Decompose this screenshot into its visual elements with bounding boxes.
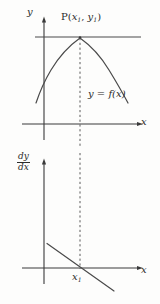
point-P-close-paren: ) <box>97 11 101 22</box>
derivative-numerator: dy <box>17 152 30 161</box>
calculus-figure: y x P(x1, y1) y = f(x) dy dx x x1 <box>0 0 160 304</box>
point-P-label: P(x1, y1) <box>61 12 101 23</box>
top-panel-graph <box>22 17 143 147</box>
top-y-axis-arrow-icon <box>42 17 46 23</box>
bottom-panel-graph <box>22 153 143 291</box>
derivative-axis-label: dy dx <box>17 152 30 173</box>
function-equation-label: y = f(x) <box>88 89 126 99</box>
top-y-axis-label: y <box>27 7 33 17</box>
point-P-letter: P <box>61 11 68 22</box>
root-x1-subscript: 1 <box>78 276 82 283</box>
derivative-denominator: dx <box>17 163 30 172</box>
root-x1-label: x1 <box>72 272 82 283</box>
bottom-y-axis-arrow-icon <box>42 159 46 165</box>
top-x-axis-label: x <box>141 117 147 127</box>
bottom-x-axis-label: x <box>141 265 147 275</box>
